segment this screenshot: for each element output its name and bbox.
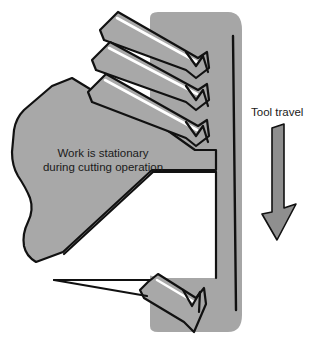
- tool-travel-arrow: [262, 124, 296, 240]
- work-note-line-1: Work is stationary: [57, 147, 148, 159]
- work-note-line-2: during cutting operation: [43, 161, 163, 173]
- broaching-operation-diagram: Tool travel Work is stationary during cu…: [0, 0, 313, 343]
- lower-tooth-trailing-edge: [54, 280, 147, 296]
- tool-travel-label: Tool travel: [251, 106, 303, 118]
